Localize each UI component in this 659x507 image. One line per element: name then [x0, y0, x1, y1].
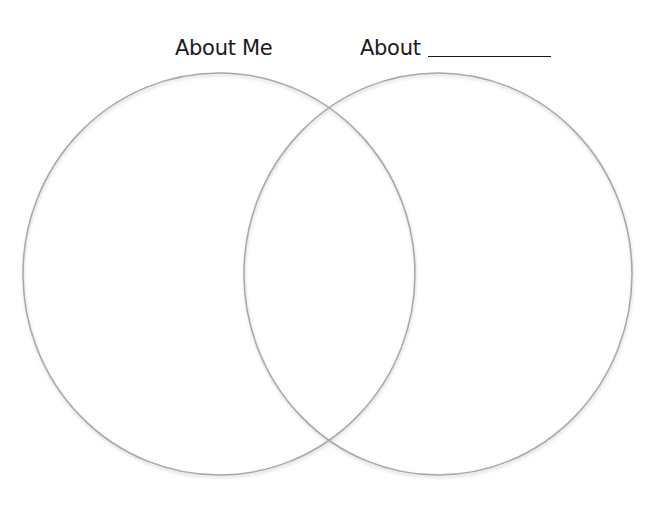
left-set-label: About Me: [175, 38, 272, 59]
right-set-label: About: [360, 38, 421, 59]
name-blank-line[interactable]: [428, 56, 551, 57]
circle-shadows: [24, 75, 633, 477]
venn-diagram: [0, 0, 659, 507]
right-set-label-group: About: [360, 38, 551, 59]
